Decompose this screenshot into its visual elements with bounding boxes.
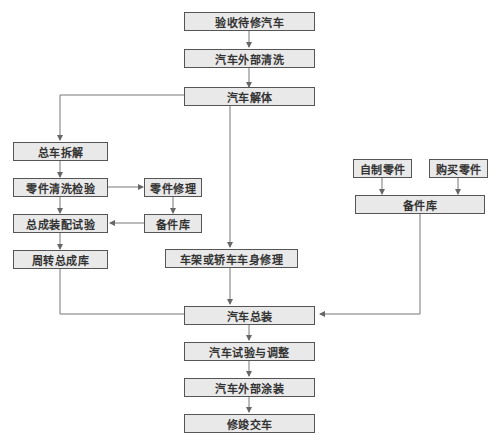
node-assembly-test: 总成装配试验: [13, 214, 108, 233]
node-parts-clean: 零件清洗检验: [13, 178, 108, 197]
node-paint: 汽车外部涂装: [184, 378, 315, 397]
node-spare-right: 备件库: [355, 195, 485, 214]
node-disassemble: 汽车解体: [184, 87, 315, 106]
node-accept: 验收待修汽车: [184, 12, 315, 31]
node-frame-body: 车架或轿车车身修理: [165, 249, 298, 268]
repair-process-flowchart: 验收待修汽车 汽车外部清洗 汽车解体 总车拆解 零件清洗检验 零件修理 备件库 …: [0, 0, 499, 442]
node-spare-left: 备件库: [144, 214, 202, 233]
node-purchased: 购买零件: [429, 159, 488, 178]
node-test-adjust: 汽车试验与调整: [184, 342, 315, 361]
node-wash-exterior: 汽车外部清洗: [184, 49, 315, 68]
node-deliver: 修竣交车: [184, 414, 315, 433]
node-turnover: 周转总成库: [13, 250, 108, 269]
node-self-made: 自制零件: [353, 159, 412, 178]
node-total-disassembly: 总车拆解: [13, 142, 108, 161]
node-final-assembly: 汽车总装: [184, 306, 315, 325]
node-parts-repair: 零件修理: [144, 178, 202, 197]
